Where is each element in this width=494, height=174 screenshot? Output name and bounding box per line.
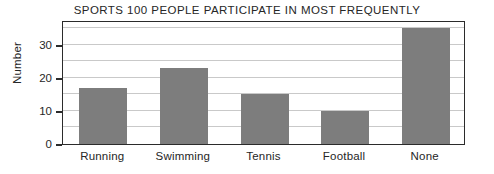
bar-series bbox=[63, 22, 464, 144]
y-axis-tick bbox=[56, 45, 62, 47]
y-axis-tick bbox=[56, 144, 62, 146]
bar bbox=[402, 28, 450, 144]
x-axis-category-label: Swimming bbox=[143, 150, 224, 162]
bar-chart-figure: SPORTS 100 PEOPLE PARTICIPATE IN MOST FR… bbox=[0, 0, 494, 174]
bar bbox=[321, 111, 369, 144]
x-axis-category-label: Tennis bbox=[223, 150, 304, 162]
y-axis-tick-labels: 0102030 bbox=[0, 0, 52, 174]
bar bbox=[241, 94, 289, 144]
bar bbox=[160, 68, 208, 144]
x-axis-category-label: None bbox=[384, 150, 465, 162]
y-axis-tick-label: 0 bbox=[6, 139, 52, 151]
y-axis-tick-label: 10 bbox=[6, 106, 52, 118]
x-axis-category-label: Running bbox=[62, 150, 143, 162]
bar bbox=[79, 88, 127, 144]
y-axis-tick bbox=[56, 78, 62, 80]
chart-title: SPORTS 100 PEOPLE PARTICIPATE IN MOST FR… bbox=[0, 4, 494, 16]
x-axis-category-label: Football bbox=[304, 150, 385, 162]
y-axis-tick-label: 20 bbox=[6, 73, 52, 85]
plot-area bbox=[62, 21, 465, 145]
y-axis-tick bbox=[56, 111, 62, 113]
y-axis-tick-label: 30 bbox=[6, 40, 52, 52]
